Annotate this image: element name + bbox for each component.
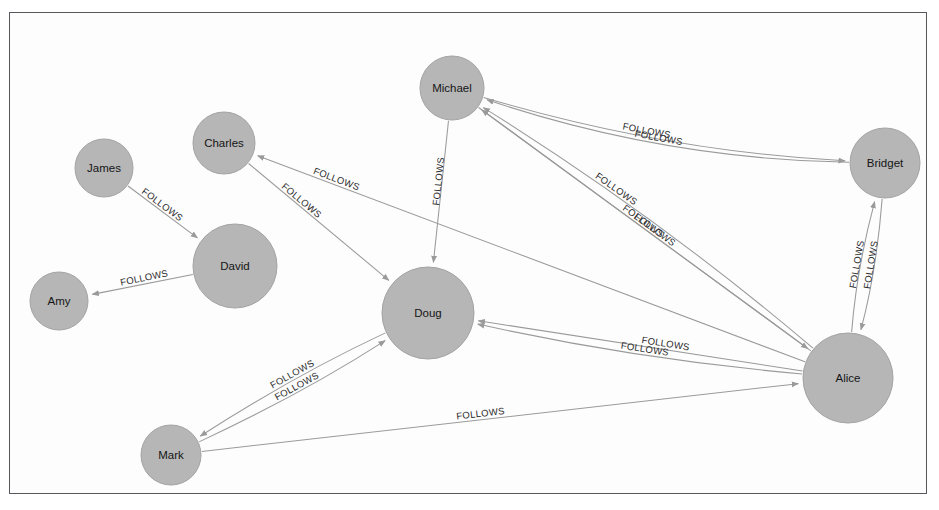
node-label: Charles: [204, 137, 244, 149]
graph-visualization-page: FOLLOWSFOLLOWSFOLLOWSFOLLOWSFOLLOWSFOLLO…: [0, 0, 939, 510]
edge-label: FOLLOWS: [280, 180, 324, 220]
edge-label: FOLLOWS: [140, 185, 185, 223]
graph-node-bridget[interactable]: Bridget: [850, 128, 920, 198]
node-label: Doug: [414, 307, 442, 319]
edge-label: FOLLOWS: [456, 405, 505, 421]
graph-node-david[interactable]: David: [193, 224, 277, 308]
graph-node-doug[interactable]: Doug: [382, 267, 474, 359]
node-label: David: [220, 260, 249, 272]
node-label: James: [87, 162, 121, 174]
graph-edge[interactable]: [128, 186, 197, 238]
node-label: Amy: [48, 295, 71, 307]
graph-node-mark[interactable]: Mark: [141, 425, 201, 485]
node-label: Michael: [432, 82, 472, 94]
graph-node-michael[interactable]: Michael: [420, 56, 484, 120]
node-label: Mark: [158, 449, 184, 461]
node-label: Bridget: [867, 157, 904, 169]
graph-edge[interactable]: [479, 108, 808, 349]
edge-label: FOLLOWS: [632, 211, 678, 249]
graph-node-james[interactable]: James: [75, 139, 133, 197]
graph-node-alice[interactable]: Alice: [803, 333, 893, 423]
graph-node-charles[interactable]: Charles: [193, 112, 255, 174]
edge-label: FOLLOWS: [430, 156, 446, 205]
node-label: Alice: [836, 372, 861, 384]
graph-svg-surface[interactable]: FOLLOWSFOLLOWSFOLLOWSFOLLOWSFOLLOWSFOLLO…: [0, 0, 939, 510]
graph-node-amy[interactable]: Amy: [30, 272, 88, 330]
edge-label: FOLLOWS: [593, 170, 639, 207]
graph-edge[interactable]: [258, 156, 805, 362]
